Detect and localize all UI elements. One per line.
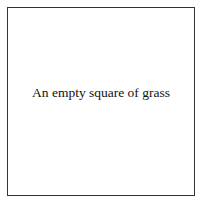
grass-square-tile: An empty square of grass (7, 7, 195, 196)
tile-caption: An empty square of grass (8, 85, 194, 101)
